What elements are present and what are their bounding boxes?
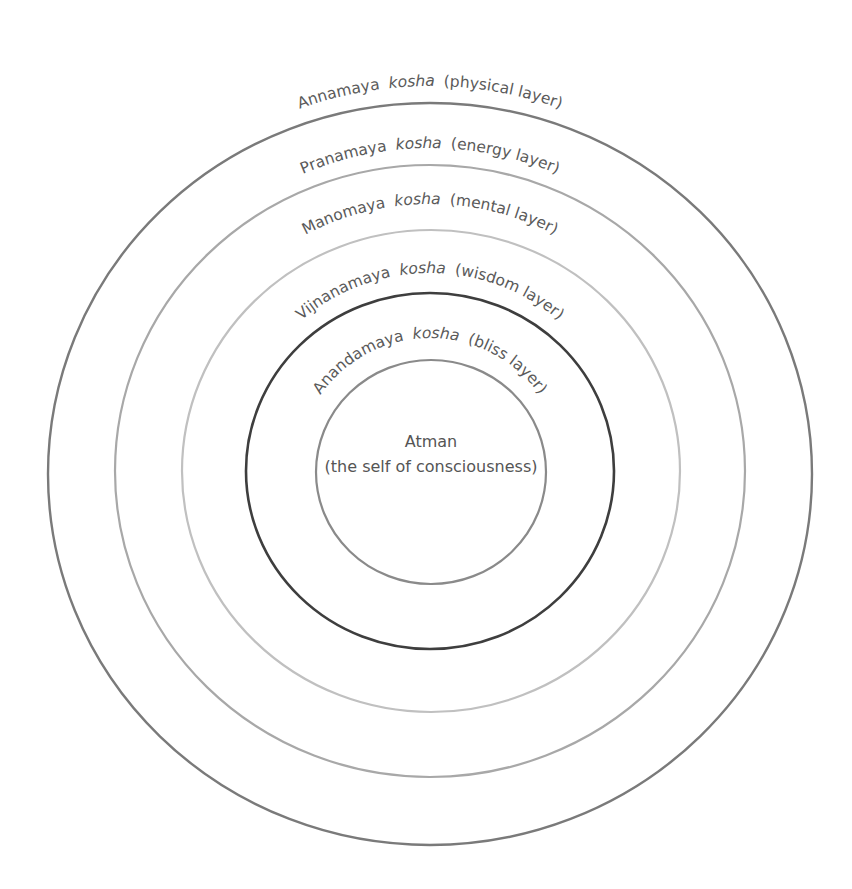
layer-term: kosha — [398, 259, 446, 279]
label-annamaya: Annamaya kosha (physical layer) — [295, 72, 565, 112]
layer-term: kosha — [393, 190, 441, 210]
layer-desc: (wisdom layer) — [454, 261, 568, 324]
kosha-diagram: Annamaya kosha (physical layer) Pranamay… — [0, 0, 852, 889]
layer-desc: (energy layer) — [450, 135, 562, 178]
layer-desc: (bliss layer) — [466, 330, 551, 397]
label-vijnanamaya: Vijnanamaya kosha (wisdom layer) — [292, 259, 567, 323]
label-manomaya: Manomaya kosha (mental layer) — [299, 190, 561, 238]
layer-desc: (physical layer) — [443, 72, 565, 112]
layer-term: kosha — [412, 324, 461, 345]
center-label-subtitle: (the self of consciousness) — [325, 457, 538, 476]
layer-name: Manomaya — [299, 194, 387, 238]
layer-term: kosha — [388, 72, 435, 92]
layer-term: kosha — [395, 134, 442, 154]
center-label-title: Atman — [405, 432, 457, 451]
label-pranamaya: Pranamaya kosha (energy layer) — [297, 134, 562, 178]
layer-name: Pranamaya — [297, 137, 387, 178]
